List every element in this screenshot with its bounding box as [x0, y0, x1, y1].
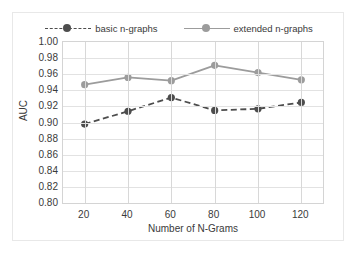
- gridline-horizontal: [63, 106, 323, 107]
- gridline-vertical: [85, 42, 86, 203]
- y-axis-tick-label: 0.88: [18, 132, 58, 143]
- gridline-horizontal: [63, 155, 323, 156]
- legend-swatch-extended-n-graphs: [184, 23, 230, 34]
- gridline-vertical: [171, 42, 172, 203]
- series-line-basic-n-graphs: [85, 98, 302, 125]
- gridline-vertical: [301, 42, 302, 203]
- y-axis-tick-label: 0.96: [18, 68, 58, 79]
- gridline-horizontal: [63, 171, 323, 172]
- chart-container: basic n-graphs extended n-graphs AUC 1.0…: [12, 12, 344, 241]
- legend-item-extended-n-graphs: extended n-graphs: [184, 23, 313, 34]
- y-axis-tick-label: 0.94: [18, 84, 58, 95]
- y-axis-tick-label: 0.82: [18, 180, 58, 191]
- y-axis-tick-label: 0.80: [18, 197, 58, 208]
- legend-label-basic-n-graphs: basic n-graphs: [95, 23, 157, 34]
- legend-marker-circle-icon: [202, 24, 210, 32]
- gridline-horizontal: [63, 123, 323, 124]
- gridline-vertical: [258, 42, 259, 203]
- x-axis-tick-label: 40: [107, 209, 147, 220]
- legend-label-extended-n-graphs: extended n-graphs: [234, 23, 313, 34]
- chart-legend: basic n-graphs extended n-graphs: [13, 18, 345, 38]
- x-axis-tick-label: 100: [237, 209, 277, 220]
- y-axis-tick-label: 1.00: [18, 36, 58, 47]
- legend-item-basic-n-graphs: basic n-graphs: [45, 23, 157, 34]
- legend-marker-circle-icon: [63, 24, 71, 32]
- plot-area: [62, 41, 324, 204]
- gridline-horizontal: [63, 90, 323, 91]
- gridline-vertical: [128, 42, 129, 203]
- x-axis-tick-labels: 20406080100120: [62, 209, 324, 223]
- legend-swatch-basic-n-graphs: [45, 23, 91, 34]
- y-axis-tick-label: 0.98: [18, 52, 58, 63]
- y-axis-tick-labels: 1.000.980.960.940.920.900.880.860.840.82…: [18, 41, 58, 204]
- gridline-horizontal: [63, 139, 323, 140]
- x-axis-tick-label: 120: [280, 209, 320, 220]
- y-axis-tick-label: 0.84: [18, 164, 58, 175]
- y-axis-tick-label: 0.92: [18, 100, 58, 111]
- y-axis-tick-label: 0.90: [18, 116, 58, 127]
- x-axis-title: Number of N-Grams: [62, 223, 324, 234]
- gridline-vertical: [215, 42, 216, 203]
- y-axis-tick-label: 0.86: [18, 148, 58, 159]
- gridline-horizontal: [63, 187, 323, 188]
- x-axis-tick-label: 80: [194, 209, 234, 220]
- gridline-horizontal: [63, 74, 323, 75]
- x-axis-tick-label: 60: [150, 209, 190, 220]
- gridline-horizontal: [63, 58, 323, 59]
- x-axis-tick-label: 20: [64, 209, 104, 220]
